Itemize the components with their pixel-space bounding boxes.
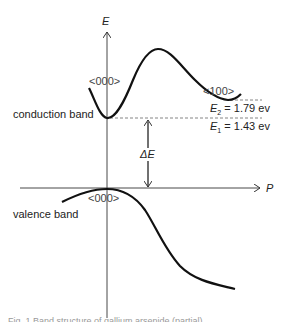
energy-axis-label: E (102, 16, 109, 27)
e2-value: = 1.79 ev (224, 102, 270, 114)
energy-gap-label: ΔE (140, 148, 155, 161)
valence-band-curve (62, 189, 235, 289)
e1-subscript: 1 (217, 127, 221, 134)
conduction-band-label: conduction band (13, 109, 94, 120)
gamma-valley-label: <000> (89, 76, 120, 87)
figure-caption: Fig. 1 Band structure of gallium arsenid… (8, 316, 203, 322)
momentum-axis-label: P (266, 183, 273, 194)
band-structure-diagram (0, 0, 286, 322)
valence-gamma-label: <000> (88, 193, 119, 204)
e1-energy-label: E1 = 1.43 ev (210, 121, 270, 132)
e2-subscript: 2 (217, 109, 221, 116)
x-valley-label: <100> (203, 86, 234, 97)
e2-energy-label: E2 = 1.79 ev (210, 103, 270, 114)
e1-value: = 1.43 ev (224, 120, 270, 132)
valence-band-label: valence band (13, 209, 78, 220)
